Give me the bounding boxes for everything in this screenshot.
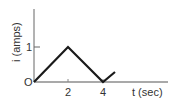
x-axis-label: t (sec) [132, 86, 163, 98]
current-waveform [34, 47, 115, 82]
y-tick-label-1: 1 [26, 41, 32, 53]
current-vs-time-diagram: O 1 2 4 t (sec) i (amps) [0, 0, 177, 106]
y-axis-label: i (amps) [10, 22, 22, 62]
origin-label: O [24, 76, 33, 88]
x-tick-label-4: 4 [100, 86, 106, 98]
x-tick-label-2: 2 [65, 86, 71, 98]
